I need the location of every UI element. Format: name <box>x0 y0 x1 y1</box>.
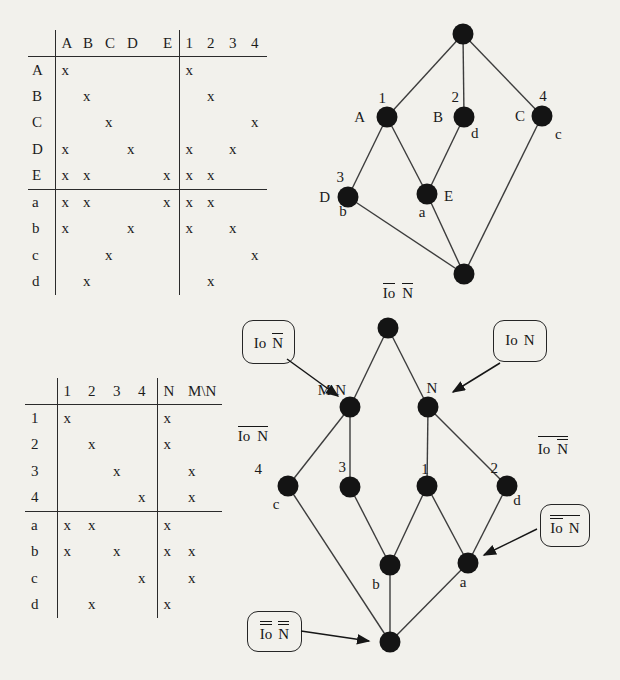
lattice-node-top <box>378 318 399 339</box>
node-label: c <box>555 126 562 142</box>
lattice-edge <box>348 117 387 197</box>
cell-mark: x <box>182 565 222 592</box>
cell-empty <box>201 136 223 163</box>
lattice-node-bottom <box>454 264 475 285</box>
cell-empty <box>157 565 182 592</box>
node-label: 4 <box>255 461 263 477</box>
cell-empty <box>55 269 77 296</box>
cell-mark: x <box>179 189 201 216</box>
column-header: 1 <box>57 378 82 405</box>
cell-empty <box>77 216 99 243</box>
row-header: b <box>28 216 55 243</box>
cell-empty <box>77 110 99 137</box>
n-text: N <box>257 428 268 444</box>
cell-empty <box>223 189 245 216</box>
cell-mark: x <box>223 216 245 243</box>
table-row: 1xx <box>25 405 222 432</box>
cell-empty <box>57 431 82 458</box>
cell-mark: x <box>57 511 82 538</box>
cell-mark: x <box>245 110 267 137</box>
cell-empty <box>223 110 245 137</box>
column-header: D <box>121 30 143 57</box>
lattice-edge <box>350 487 390 565</box>
io-text: Io <box>238 428 251 444</box>
node-label: a <box>460 574 467 590</box>
cell-empty <box>57 565 82 592</box>
table-row: cxx <box>25 565 222 592</box>
column-header: E <box>143 30 179 57</box>
cell-empty <box>179 242 201 269</box>
cell-empty <box>157 485 182 512</box>
cell-empty <box>132 538 157 565</box>
callout-io-nbar: IoN <box>242 320 295 364</box>
cell-empty <box>132 511 157 538</box>
corner-cell <box>28 30 55 57</box>
row-header: b <box>25 538 57 565</box>
lattice-edge <box>388 328 428 407</box>
cell-empty <box>143 57 179 84</box>
table-row: 3xx <box>25 458 222 485</box>
row-header: 2 <box>25 431 57 458</box>
cell-empty <box>99 57 121 84</box>
column-header: A <box>55 30 77 57</box>
table-row: 2xx <box>25 431 222 458</box>
cell-empty <box>182 405 222 432</box>
lattice-node-4C <box>532 106 553 127</box>
cell-empty <box>179 269 201 296</box>
cell-empty <box>99 269 121 296</box>
node-label: 3 <box>339 459 347 475</box>
cell-mark: x <box>179 216 201 243</box>
cell-mark: x <box>55 163 77 190</box>
io-n-label-top: IoN <box>360 283 436 302</box>
n-text: N <box>278 624 289 643</box>
callout-text: IoN <box>260 621 289 643</box>
lattice-node-MN <box>340 397 361 418</box>
callout-iobar-n-overbar: IoN <box>540 504 590 547</box>
column-header: C <box>99 30 121 57</box>
node-label: 4 <box>539 88 547 104</box>
lattice-node-a <box>458 553 479 574</box>
cell-empty <box>182 592 222 619</box>
row-header: D <box>28 136 55 163</box>
cell-empty <box>132 458 157 485</box>
cell-empty <box>77 136 99 163</box>
cell-empty <box>99 163 121 190</box>
table-row: axxx <box>25 511 222 538</box>
node-label: M\N <box>318 382 347 398</box>
cell-empty <box>121 269 143 296</box>
lattice-node-4c <box>278 476 299 497</box>
column-header: 4 <box>132 378 157 405</box>
cell-empty <box>57 592 82 619</box>
cell-mark: x <box>55 216 77 243</box>
node-label: 2 <box>491 460 499 476</box>
node-label: 1 <box>421 461 429 477</box>
callout-io-n-double-bars: IoN <box>247 611 302 652</box>
lattice-edge <box>468 486 507 563</box>
cell-mark: x <box>201 163 223 190</box>
cell-empty <box>99 136 121 163</box>
context-table-bottom: 1234NM\N1xx2xx3xx4xxaxxxbxxxxcxxdxx <box>25 378 222 618</box>
header-row: ABCDE1234 <box>28 30 267 57</box>
column-header: 2 <box>201 30 223 57</box>
cell-mark: x <box>99 110 121 137</box>
node-label: a <box>419 204 426 220</box>
node-label: N <box>427 380 438 396</box>
cell-empty <box>143 242 179 269</box>
callout-io-n: IoN <box>493 320 547 362</box>
cell-mark: x <box>157 431 182 458</box>
table-row: 4xx <box>25 485 222 512</box>
cell-empty <box>99 83 121 110</box>
cell-empty <box>121 242 143 269</box>
row-header: 3 <box>25 458 57 485</box>
lattice-node-bottom <box>380 632 401 653</box>
lattice-edge <box>427 117 464 194</box>
table-row: cxx <box>28 242 267 269</box>
cell-empty <box>99 216 121 243</box>
header-row: 1234NM\N <box>25 378 222 405</box>
table-row: axxxxx <box>28 189 267 216</box>
node-label: b <box>372 576 380 592</box>
lattice-edge <box>350 328 388 407</box>
row-header: C <box>28 110 55 137</box>
cell-mark: x <box>157 511 182 538</box>
row-header: a <box>28 189 55 216</box>
